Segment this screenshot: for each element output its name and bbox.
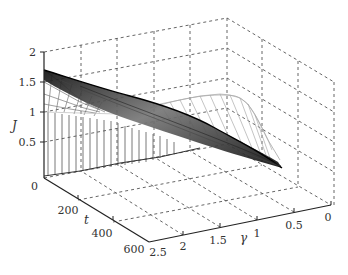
gamma-tick: 0.5 <box>285 219 303 232</box>
gamma-tick: 2.5 <box>149 246 167 259</box>
surface-plot: 2 1.5 1 0.5 0 J 200 400 600 t 2.5 2 1.5 … <box>0 0 348 275</box>
gamma-tick: 1.5 <box>209 234 227 247</box>
z-tick: 1 <box>29 106 36 119</box>
t-tick: 200 <box>58 204 79 217</box>
surface-dark-ridge <box>44 70 282 168</box>
z-tick-labels: 2 1.5 1 0.5 0 <box>19 46 39 193</box>
z-axis-label: J <box>9 119 18 133</box>
gamma-tick: 0 <box>325 211 332 224</box>
z-tick: 0 <box>31 180 38 193</box>
t-tick: 400 <box>92 227 113 240</box>
t-tick: 600 <box>124 243 145 256</box>
gamma-axis-label: γ <box>240 231 248 245</box>
gamma-tick: 2 <box>180 240 187 253</box>
z-tick: 2 <box>29 46 36 59</box>
gamma-tick: 1 <box>254 227 261 240</box>
t-tick-labels: 200 400 600 <box>58 204 145 256</box>
z-tick: 0.5 <box>19 136 37 149</box>
z-tick: 1.5 <box>19 76 37 89</box>
t-axis-label: t <box>84 213 89 227</box>
